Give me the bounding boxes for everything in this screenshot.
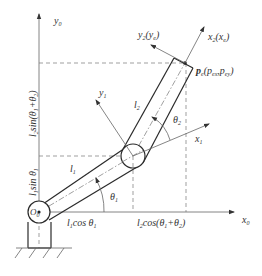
label-l2: l2 <box>134 99 140 111</box>
label-y2: y2(ye) <box>137 29 160 41</box>
label-proj-x2: l2cos(θ1+θ2) <box>137 217 186 229</box>
base-pillar <box>28 222 51 248</box>
label-proj-x1: l1cos θ1 <box>67 217 97 229</box>
robot-arm-diagram: y0 x0 y1 x1 x2(xe) y2(ye) pe(pex,pey) l1… <box>0 0 262 276</box>
label-proj-y1: l1sin θ1 <box>27 168 39 196</box>
theta1-arrow <box>96 178 98 183</box>
label-x1: x1 <box>194 133 202 145</box>
label-y0: y0 <box>53 15 61 27</box>
label-theta1: θ1 <box>110 191 118 203</box>
label-l1: l1 <box>70 163 76 175</box>
label-proj-y2: l2sin(θ1+θ2) <box>27 90 39 137</box>
y2-axis <box>151 45 185 63</box>
label-end-point: pe(pex,pey) <box>195 65 234 77</box>
label-y1: y1 <box>98 87 106 99</box>
ground-hatch <box>15 248 72 258</box>
x2-axis <box>185 27 204 63</box>
theta2-arrow <box>152 117 157 120</box>
label-x2: x2(xe) <box>207 31 230 43</box>
theta1-arc <box>96 179 104 212</box>
label-theta2: θ2 <box>173 114 181 126</box>
label-x0: x0 <box>241 214 249 226</box>
y1-axis <box>96 100 133 156</box>
